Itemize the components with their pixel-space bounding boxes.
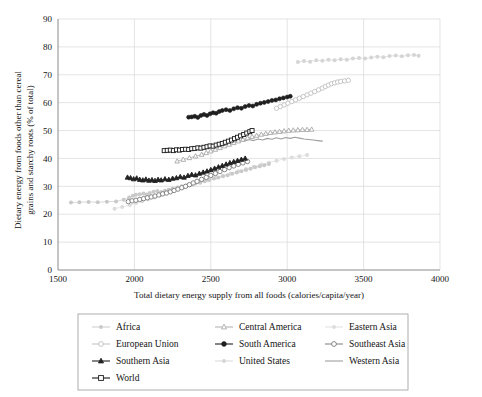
legend-label: World: [116, 373, 140, 383]
data-point-marker: [199, 177, 203, 181]
data-point-marker: [228, 108, 232, 112]
data-point-marker: [288, 94, 292, 98]
data-point-marker: [244, 168, 248, 172]
legend-label: Southern Asia: [116, 356, 170, 366]
data-point-marker: [235, 170, 239, 174]
data-point-marker: [69, 201, 73, 205]
data-point-marker: [77, 200, 81, 204]
data-point-marker: [332, 325, 336, 329]
y-axis-title-line-2: grains and starchy roots (% of total): [25, 85, 35, 214]
data-point-marker: [262, 100, 266, 104]
data-point-marker: [412, 53, 416, 57]
data-point-marker: [302, 59, 306, 63]
data-point-marker: [333, 58, 337, 62]
data-point-marker: [297, 154, 301, 158]
data-point-marker: [251, 104, 255, 108]
data-point-marker: [222, 342, 227, 347]
legend-label: European Union: [116, 339, 179, 349]
data-point-marker: [250, 129, 254, 133]
data-point-marker: [282, 157, 286, 161]
data-point-marker: [314, 58, 318, 62]
y-tick-label: 80: [43, 42, 53, 52]
data-point-marker: [308, 60, 312, 64]
scatter-line-chart: 0102030405060708090 15002000250030003500…: [0, 0, 482, 397]
data-point-marker: [274, 98, 278, 102]
y-tick-label: 40: [43, 154, 53, 164]
legend-label: United States: [239, 356, 290, 366]
data-point-marker: [232, 107, 236, 111]
data-point-marker: [281, 96, 285, 100]
x-tick-label: 1500: [49, 274, 68, 284]
x-axis-title: Total dietary energy supply from all foo…: [134, 290, 364, 300]
data-point-marker: [394, 54, 398, 58]
y-tick-label: 60: [43, 98, 53, 108]
legend-label: Western Asia: [349, 356, 400, 366]
data-point-marker: [258, 164, 262, 168]
data-point-marker: [249, 167, 253, 171]
data-point-marker: [255, 102, 259, 106]
data-point-marker: [369, 55, 373, 59]
data-point-marker: [253, 165, 257, 169]
legend-label: Eastern Asia: [349, 322, 398, 332]
data-point-marker: [221, 174, 225, 178]
data-point-marker: [270, 98, 274, 102]
data-point-marker: [99, 325, 103, 329]
data-point-marker: [243, 105, 247, 109]
data-point-marker: [216, 175, 220, 179]
data-point-marker: [120, 205, 124, 209]
data-point-marker: [290, 156, 294, 160]
data-point-marker: [266, 100, 270, 104]
data-point-marker: [406, 53, 410, 57]
data-point-marker: [114, 199, 118, 203]
y-tick-label: 90: [43, 14, 53, 24]
data-point-marker: [220, 108, 224, 112]
x-tick-label: 4000: [431, 274, 450, 284]
data-point-marker: [400, 54, 404, 58]
data-point-marker: [213, 171, 217, 175]
figure-background: [0, 0, 482, 397]
data-point-marker: [87, 200, 91, 204]
x-tick-label: 3000: [278, 274, 297, 284]
data-point-marker: [224, 108, 228, 112]
data-point-marker: [363, 57, 367, 61]
data-point-marker: [230, 172, 234, 176]
data-point-marker: [262, 163, 266, 167]
y-tick-label: 10: [43, 237, 53, 247]
data-point-marker: [339, 57, 343, 61]
legend-label: South America: [239, 339, 297, 349]
chart-figure-root: 0102030405060708090 15002000250030003500…: [0, 0, 482, 397]
data-point-marker: [346, 78, 350, 82]
data-point-marker: [138, 192, 142, 196]
data-point-marker: [320, 59, 324, 63]
data-point-marker: [296, 60, 300, 64]
x-tick-label: 2500: [202, 274, 221, 284]
data-point-marker: [134, 193, 138, 197]
data-point-marker: [345, 58, 349, 62]
data-point-marker: [351, 57, 355, 61]
data-point-marker: [239, 106, 243, 110]
data-point-marker: [239, 169, 243, 173]
y-tick-label: 70: [43, 70, 53, 80]
data-point-marker: [326, 58, 330, 62]
data-point-marker: [105, 200, 109, 204]
data-point-marker: [357, 56, 361, 60]
data-point-marker: [381, 55, 385, 59]
x-tick-label: 2000: [125, 274, 144, 284]
data-point-marker: [278, 97, 282, 101]
y-tick-label: 50: [43, 126, 53, 136]
data-point-marker: [226, 173, 230, 177]
data-point-marker: [247, 103, 251, 107]
data-point-marker: [122, 198, 126, 202]
data-point-marker: [267, 162, 271, 166]
data-point-marker: [222, 359, 226, 363]
x-tick-label: 3500: [355, 274, 374, 284]
data-point-marker: [99, 376, 104, 381]
data-point-marker: [417, 54, 421, 58]
y-tick-label: 20: [43, 209, 53, 219]
data-point-marker: [275, 159, 279, 163]
data-point-marker: [218, 169, 222, 173]
legend-label: Central America: [239, 322, 302, 332]
data-point-marker: [204, 175, 208, 179]
data-point-marker: [375, 55, 379, 59]
data-point-marker: [99, 342, 104, 347]
